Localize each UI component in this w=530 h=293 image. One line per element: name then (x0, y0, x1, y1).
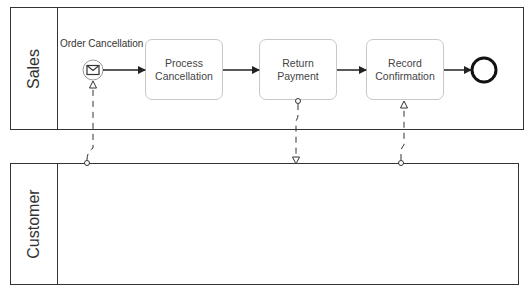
task-return-payment[interactable]: Return Payment (259, 39, 337, 100)
pool-header-customer: Customer (11, 164, 58, 284)
task-record-confirmation[interactable]: Record Confirmation (366, 39, 444, 100)
start-event-label: Order Cancellation (60, 38, 143, 49)
pool-customer[interactable]: Customer (10, 163, 519, 285)
pool-label-customer: Customer (25, 189, 43, 258)
task-process-cancellation[interactable]: Process Cancellation (145, 39, 223, 100)
pool-label-sales: Sales (25, 48, 43, 88)
pool-header-sales: Sales (11, 8, 58, 129)
